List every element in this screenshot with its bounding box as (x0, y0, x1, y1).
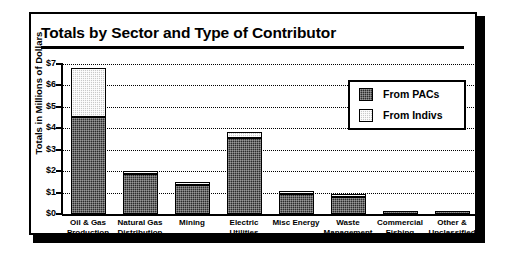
bar-segment-from-indivs (71, 68, 106, 116)
legend-label: From PACs (383, 88, 439, 101)
y-axis-tick-label: $2 (30, 166, 56, 175)
bar-segment-from-pacs (279, 194, 314, 214)
y-axis-tick (56, 127, 62, 129)
light-checker-swatch (359, 109, 373, 122)
x-axis-label-line: Electric (218, 218, 270, 228)
chart-legend: From PACsFrom Indivs (348, 80, 466, 130)
y-axis-tick-label: $3 (30, 145, 56, 154)
bar-segment-from-pacs (383, 211, 418, 214)
x-axis-label-line: Other & (426, 218, 478, 228)
chart-title: Totals by Sector and Type of Contributor (41, 20, 461, 46)
bar-segment-from-pacs (71, 117, 106, 215)
title-underline (41, 46, 464, 49)
y-axis-tick (56, 106, 62, 108)
x-axis-label-line: Production (62, 228, 114, 238)
y-axis-tick-label: $6 (30, 80, 56, 89)
x-axis-label-line: Commercial (374, 218, 426, 228)
y-axis-tick-labels: $0$1$2$3$4$5$6$7 (30, 0, 56, 269)
y-axis-tick-label: $0 (30, 209, 56, 218)
bar-segment-from-indivs (227, 132, 262, 138)
x-axis-label-line: Mining (166, 218, 218, 228)
x-axis-category-label: ElectricUtilities (218, 218, 270, 237)
bar-natural-gas-distribution (123, 64, 158, 214)
x-axis-label-line: Oil & Gas (62, 218, 114, 228)
legend-label: From Indivs (383, 109, 443, 122)
x-axis-label-line: Waste (322, 218, 374, 228)
y-axis-tick (56, 213, 62, 215)
bar-segment-from-pacs (175, 185, 210, 214)
x-axis-category-label: CommercialFishing (374, 218, 426, 237)
y-axis-tick-label: $5 (30, 102, 56, 111)
x-axis-category-label: WasteManagement (322, 218, 374, 237)
y-axis-tick (56, 149, 62, 151)
bar-mining (175, 64, 210, 214)
y-axis-tick (56, 170, 62, 172)
x-axis-label-line: Distribution (114, 228, 166, 238)
x-axis-category-label: Oil & GasProduction (62, 218, 114, 237)
x-axis-label-line: Unclassified (426, 228, 478, 238)
x-axis-category-label: Natural GasDistribution (114, 218, 166, 237)
axis-baseline (62, 214, 478, 216)
bar-segment-from-indivs (279, 191, 314, 194)
bar-segment-from-indivs (331, 194, 366, 197)
y-axis-tick (56, 84, 62, 86)
x-axis-label-line: Utilities (218, 228, 270, 238)
dark-checker-swatch (359, 88, 373, 101)
bar-segment-from-pacs (331, 197, 366, 214)
x-axis-category-label: Mining (166, 218, 218, 228)
bar-electric-utilities (227, 64, 262, 214)
x-axis-category-label: Other &Unclassified (426, 218, 478, 237)
bar-oil-gas-production (71, 64, 106, 214)
x-axis-label-line: Fishing (374, 228, 426, 238)
x-axis-category-label: Misc Energy (270, 218, 322, 228)
bar-segment-from-indivs (123, 171, 158, 174)
y-axis-tick-label: $7 (30, 59, 56, 68)
y-axis-tick (56, 192, 62, 194)
bar-segment-from-indivs (175, 182, 210, 185)
y-axis-tick-label: $1 (30, 188, 56, 197)
y-axis-tick (56, 63, 62, 65)
bar-misc-energy (279, 64, 314, 214)
x-axis-label-line: Natural Gas (114, 218, 166, 228)
bar-segment-from-pacs (227, 138, 262, 214)
chart-screenshot: Totals by Sector and Type of Contributor… (0, 0, 510, 269)
x-axis-label-line: Management (322, 228, 374, 238)
bar-segment-from-pacs (435, 211, 470, 214)
x-axis-label-line: Misc Energy (270, 218, 322, 228)
bar-segment-from-pacs (123, 174, 158, 214)
y-axis-tick-label: $4 (30, 123, 56, 132)
